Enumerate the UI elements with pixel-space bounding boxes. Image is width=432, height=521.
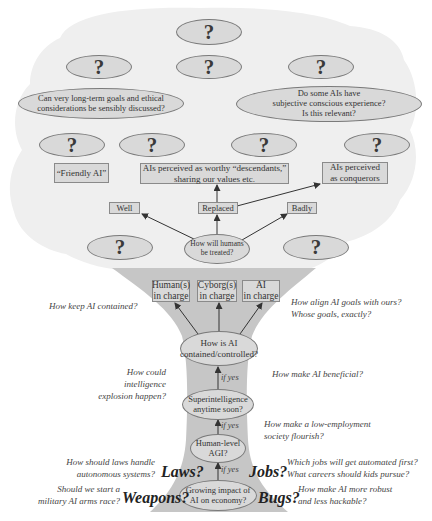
outcome-replaced: Replaced [198, 202, 238, 214]
friendly-ai-box: “Friendly AI” [54, 163, 109, 183]
question-node-row3-2: ? [119, 133, 185, 157]
if-yes-label-2: if yes [221, 420, 239, 430]
contained-node: How is AI contained/controlled? [180, 331, 258, 366]
outcome-well: Well [109, 202, 140, 214]
cyborgs-in-charge-box: Cyborg(s) in charge [197, 280, 237, 302]
cyborgs-line-1: Cyborg(s) [198, 280, 236, 291]
agi-node: Human-level AGI? [190, 434, 246, 463]
humans-line-2: in charge [154, 291, 189, 302]
question-node-row3-1: ? [39, 133, 105, 157]
question-node-row2-3: ? [288, 55, 354, 79]
question-node-side-right: ? [283, 235, 349, 260]
ai-in-charge-box: AI in charge [242, 280, 280, 302]
ai-line-1: AI [256, 280, 266, 291]
label-jobs: Jobs? [249, 463, 287, 481]
long-term-goals-text: Can very long-term goals and ethical con… [33, 94, 169, 114]
conscious-experience-node: Do some AIs have subjective conscious ex… [236, 86, 422, 122]
humans-treated-line-2: be treated? [201, 249, 234, 258]
annotation-bugs: How make AI more robust and less hackabl… [298, 483, 392, 507]
annotation-keep-contained: How keep AI contained? [49, 300, 138, 312]
annotation-low-employment: How make a low-employment society flouri… [264, 418, 371, 442]
label-weapons: Weapons? [122, 489, 189, 507]
laws-line-1: How should laws handle [60, 456, 155, 468]
jobs-line-2: What careers should kids pursue? [287, 468, 418, 480]
humans-in-charge-box: Human(s) in charge [152, 280, 190, 302]
if-yes-label-1: if yes [221, 372, 239, 382]
annotation-weapons: Should we start a military AI arms race? [36, 483, 120, 507]
humans-treated-node: How will humans be treated? [184, 234, 250, 264]
contained-line-2: contained/controlled? [180, 349, 258, 359]
descendants-box: AIs perceived as worthy “descendants,” s… [140, 163, 289, 184]
annotation-intelligence-explosion: How could intelligence explosion happen? [83, 366, 166, 402]
annotation-align-goals: How align AI goals with ours? Whose goal… [291, 296, 402, 320]
agi-line-2: AGI? [209, 449, 228, 459]
label-bugs: Bugs? [258, 489, 300, 507]
explosion-line-2: explosion happen? [83, 390, 166, 402]
conscious-line-3: Is this relevant? [302, 109, 356, 119]
outcome-badly: Badly [287, 202, 317, 214]
weapons-line-2: military AI arms race? [36, 495, 120, 507]
conquerors-line-2: as conquerors [330, 173, 380, 184]
annotation-jobs: Which jobs will get automated first? Wha… [287, 456, 418, 480]
contained-line-1: How is AI [200, 338, 237, 348]
bugs-line-1: How make AI more robust [298, 483, 392, 495]
if-yes-label-3: if yes [221, 464, 239, 474]
laws-line-2: autonomous systems? [60, 468, 155, 480]
question-node-row2-1: ? [66, 55, 132, 79]
conquerors-box: AIs perceived as conquerors [322, 162, 388, 184]
growing-impact-line-2: AI on economy? [190, 496, 247, 506]
bugs-line-2: and less hackable? [298, 495, 392, 507]
weapons-line-1: Should we start a [36, 483, 120, 495]
annotation-laws: How should laws handle autonomous system… [60, 456, 155, 480]
growing-impact-node: Growing impact of AI on economy? [179, 480, 257, 511]
conquerors-line-1: AIs perceived [330, 162, 380, 173]
question-node-row3-3: ? [231, 133, 297, 157]
superintelligence-line-2: anytime soon? [193, 405, 242, 415]
label-laws: Laws? [161, 463, 204, 481]
superintelligence-node: Superintelligence anytime soon? [182, 389, 254, 420]
long-term-goals-node: Can very long-term goals and ethical con… [18, 88, 184, 119]
align-goals-line-2: Whose goals, exactly? [291, 308, 402, 320]
low-employment-line-2: society flourish? [264, 430, 371, 442]
question-node-top: ? [176, 19, 242, 45]
descendants-line-2: sharing our values etc. [174, 174, 255, 185]
cyborgs-line-2: in charge [200, 291, 235, 302]
ai-line-2: in charge [244, 291, 279, 302]
align-goals-line-1: How align AI goals with ours? [291, 296, 402, 308]
humans-line-1: Human(s) [152, 280, 190, 291]
low-employment-line-1: How make a low-employment [264, 418, 371, 430]
question-node-side-left: ? [87, 235, 153, 260]
descendants-line-1: AIs perceived as worthy “descendants,” [143, 163, 287, 174]
question-node-row2-2: ? [176, 55, 242, 79]
explosion-line-1: How could intelligence [83, 366, 166, 390]
question-node-row3-4: ? [344, 133, 410, 157]
jobs-line-1: Which jobs will get automated first? [287, 456, 418, 468]
annotation-beneficial: How make AI beneficial? [272, 368, 363, 380]
